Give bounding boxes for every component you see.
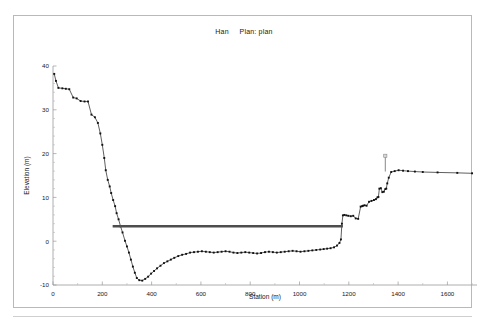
ground-data-point — [181, 254, 183, 256]
ground-data-point — [272, 251, 274, 253]
ground-data-point — [185, 253, 187, 255]
ground-data-point — [213, 252, 215, 254]
ground-data-point — [138, 279, 140, 281]
x-tick-label: 400 — [146, 290, 157, 297]
x-tick-label: 1400 — [391, 290, 405, 297]
ground-data-point — [240, 252, 242, 254]
ground-data-point — [319, 249, 321, 251]
ground-data-point — [144, 278, 146, 280]
ground-data-point — [156, 267, 158, 269]
ground-data-point — [197, 251, 199, 253]
ground-data-point — [326, 248, 328, 250]
ground-profile-line — [54, 74, 472, 281]
ground-data-point — [300, 251, 302, 253]
ground-data-point — [193, 251, 195, 253]
ground-data-point — [84, 101, 86, 103]
ground-data-point — [303, 250, 305, 252]
x-axis-title: Station (m) — [249, 293, 281, 301]
ground-data-point — [414, 171, 416, 173]
x-tick-label: 200 — [97, 290, 108, 297]
ground-data-point — [163, 262, 165, 264]
ground-data-point — [105, 169, 107, 171]
x-tick-label: 1000 — [293, 290, 307, 297]
ground-data-point — [352, 215, 354, 217]
ground-data-point — [386, 182, 388, 184]
ground-data-point — [209, 251, 211, 253]
ground-data-point — [307, 250, 309, 252]
ground-data-point — [264, 251, 266, 253]
ground-data-point — [323, 248, 325, 250]
ground-data-point — [388, 177, 390, 179]
ground-data-point — [311, 249, 313, 251]
ground-data-point — [225, 250, 227, 252]
ground-data-point — [471, 172, 473, 174]
ground-data-point — [364, 204, 366, 206]
ground-data-point — [160, 265, 162, 267]
ground-data-point — [340, 239, 342, 241]
ground-data-point — [375, 198, 377, 200]
ground-data-point — [333, 246, 335, 248]
ground-data-point — [292, 250, 294, 252]
y-axis-title: Elevation (m) — [23, 156, 31, 194]
ground-data-point — [99, 133, 101, 135]
ground-data-point — [347, 215, 349, 217]
ground-data-point — [236, 252, 238, 254]
ground-data-point — [368, 201, 370, 203]
ground-data-point — [343, 214, 345, 216]
ground-data-point — [390, 171, 392, 173]
ground-data-point — [437, 171, 439, 173]
ground-data-point — [385, 188, 387, 190]
x-tick-label: 1200 — [342, 290, 356, 297]
series-group — [53, 73, 473, 282]
ground-data-point — [126, 246, 128, 248]
ground-data-point — [124, 240, 126, 242]
ground-data-point — [284, 251, 286, 253]
ground-data-point — [80, 100, 82, 102]
ground-data-point — [256, 253, 258, 255]
ground-data-point — [68, 88, 70, 90]
ground-data-point — [116, 212, 118, 214]
ground-data-point — [91, 114, 93, 116]
ground-data-point — [380, 187, 382, 189]
ground-data-point — [407, 170, 409, 172]
ground-data-point — [101, 144, 103, 146]
ground-data-point — [229, 251, 231, 253]
ground-data-point — [296, 250, 298, 252]
ground-data-point — [141, 280, 143, 282]
ground-data-point — [107, 179, 109, 181]
ground-data-point — [61, 87, 63, 89]
ground-data-point — [112, 199, 114, 201]
ground-data-point — [118, 218, 120, 220]
ground-data-point — [373, 199, 375, 201]
ground-data-point — [339, 242, 341, 244]
ground-data-point — [134, 272, 136, 274]
bank-station-cap-icon — [384, 154, 387, 157]
ground-data-point — [55, 80, 57, 82]
y-tick-label: 20 — [42, 150, 49, 157]
x-tick-label: 0 — [51, 290, 55, 297]
ground-data-point — [248, 252, 250, 254]
ground-data-point — [128, 252, 130, 254]
ground-data-point — [280, 251, 282, 253]
ground-data-point — [260, 252, 262, 254]
y-tick-label: 40 — [42, 62, 49, 69]
ground-data-point — [201, 250, 203, 252]
ground-data-point — [94, 116, 96, 118]
ground-data-point — [76, 97, 78, 99]
ground-data-point — [57, 87, 59, 89]
ground-data-point — [72, 97, 74, 99]
ground-data-point — [166, 260, 168, 262]
ground-data-point — [173, 257, 175, 259]
ground-data-point — [170, 259, 172, 261]
annotations-group — [384, 154, 387, 171]
ground-data-point — [130, 259, 132, 261]
ground-data-point — [53, 73, 55, 75]
ground-data-point — [205, 251, 207, 253]
ground-data-point — [341, 223, 343, 225]
ground-data-point — [268, 251, 270, 253]
ground-data-point — [350, 215, 352, 217]
ground-data-point — [132, 266, 134, 268]
y-tick-label: 10 — [42, 194, 49, 201]
ground-data-point — [330, 247, 332, 249]
ground-data-point — [114, 205, 116, 207]
